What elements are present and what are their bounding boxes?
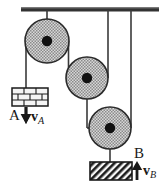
velocity-a-label: vA bbox=[31, 110, 44, 126]
pulley-1-hub bbox=[42, 36, 52, 46]
velocity-a-subscript: A bbox=[38, 115, 44, 126]
velocity-b-arrow bbox=[132, 161, 142, 180]
pulley-1 bbox=[25, 19, 69, 63]
pulley-2 bbox=[66, 57, 108, 99]
pulley-3-hub bbox=[105, 123, 115, 133]
velocity-b-symbol: v bbox=[143, 163, 150, 178]
pulley-2-hub bbox=[82, 73, 92, 83]
pulley-system-figure: A vA B vB bbox=[0, 0, 167, 186]
block-b-label: B bbox=[134, 146, 144, 161]
velocity-b-subscript: B bbox=[150, 169, 156, 180]
ceiling-support bbox=[21, 8, 159, 12]
block-a-label: A bbox=[9, 108, 20, 123]
block-a bbox=[12, 88, 48, 106]
velocity-a-arrow bbox=[21, 107, 32, 124]
block-b bbox=[90, 162, 132, 180]
pulley-3 bbox=[89, 107, 131, 149]
velocity-a-symbol: v bbox=[31, 109, 38, 124]
velocity-b-label: vB bbox=[143, 164, 156, 180]
